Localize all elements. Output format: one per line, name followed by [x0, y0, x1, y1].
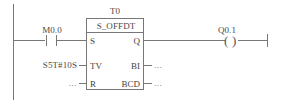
rung-wire-coil-to-end [238, 40, 268, 41]
block-input-pin-s: S [90, 36, 95, 46]
rung-wire-block-to-coil [144, 40, 226, 41]
block-input-stub-tv [79, 65, 86, 66]
coil-right-paren: ) [232, 34, 236, 47]
block-input-pin-tv: TV [90, 61, 102, 71]
block-input-operand-tv[interactable]: S5T#10S [24, 60, 77, 70]
block-output-pin-bcd: BCD [121, 79, 140, 89]
left-power-rail [13, 4, 14, 100]
rung-wire-contact-to-block [57, 40, 86, 41]
ladder-diagram-canvas: M0.0 T0 S_OFFDT S TV R Q BI BCD S5T#10S … [0, 0, 282, 104]
block-output-operand-bi[interactable]: ... [154, 60, 162, 70]
block-input-operand-r[interactable]: ... [40, 78, 77, 88]
rung-end-terminator [267, 34, 268, 47]
rung-wire-rail-to-contact [13, 40, 45, 41]
block-type-label: S_OFFDT [87, 21, 145, 31]
block-output-pin-q: Q [134, 36, 141, 46]
block-output-stub-bi [144, 65, 152, 66]
block-output-stub-bcd [144, 83, 152, 84]
block-instance-label: T0 [86, 6, 144, 16]
block-input-pin-r: R [90, 79, 96, 89]
contact-left-bar [46, 35, 47, 46]
block-title-separator [87, 32, 143, 33]
coil-left-paren: ( [224, 34, 228, 47]
block-output-operand-bcd[interactable]: ... [154, 78, 162, 88]
timer-block-s-offdt[interactable]: S_OFFDT S TV R Q BI BCD [86, 18, 144, 90]
block-input-stub-r [79, 83, 86, 84]
contact-label: M0.0 [30, 25, 74, 35]
block-output-pin-bi: BI [131, 61, 140, 71]
